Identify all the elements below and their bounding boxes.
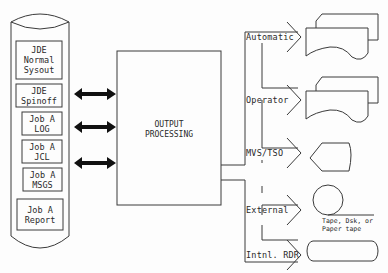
spool-item-label: Job A Report — [17, 205, 63, 225]
route-label-operator: Operator — [246, 95, 289, 105]
printer-operator-icon — [306, 77, 378, 122]
display-terminal-icon — [310, 143, 351, 171]
external-media-caption: Tape, Dsk, or Paper tape — [322, 218, 373, 233]
spool-item-label: Job A MSGS — [23, 170, 62, 190]
route-label-internal-reader: Intnl. RDR — [246, 250, 299, 260]
spool-item-label: Job A LOG — [22, 114, 62, 134]
route-label-mvs-tso: MVS/TSO — [246, 148, 283, 158]
output-processing-diagram: JDE Normal Sysout JDE Spinoff Job A LOG … — [0, 0, 388, 273]
internal-reader-icon — [307, 241, 378, 261]
bidirectional-arrows — [74, 88, 116, 169]
spool-item-label: JDE Normal Sysout — [16, 45, 62, 75]
output-processing-title: OUTPUT PROCESSING — [117, 120, 221, 140]
double-arrow-icon-3 — [74, 157, 116, 169]
route-arrowheads — [287, 22, 301, 270]
double-arrow-icon-2 — [74, 121, 116, 133]
route-label-external: External — [246, 205, 289, 215]
spool-item-label: JDE Spinoff — [16, 86, 62, 106]
printer-automatic-icon — [306, 14, 378, 59]
spool-item-label: Job A JCL — [22, 142, 62, 162]
route-label-automatic: Automatic — [246, 32, 294, 42]
double-arrow-icon-1 — [74, 88, 116, 100]
tape-reel-icon — [313, 185, 374, 215]
